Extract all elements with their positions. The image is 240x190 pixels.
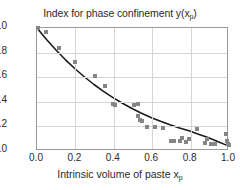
x-axis-tick-label: 0.0 bbox=[16, 152, 56, 163]
data-point-marker bbox=[103, 84, 107, 88]
plot-area bbox=[36, 27, 228, 150]
gridline-vertical bbox=[75, 28, 76, 149]
x-axis-tick-label: 1.0 bbox=[208, 152, 240, 163]
data-point-marker bbox=[140, 119, 144, 123]
chart-title: Index for phase confinement y(xp) bbox=[0, 7, 240, 19]
data-point-marker bbox=[93, 74, 97, 78]
gridline-horizontal bbox=[37, 53, 227, 54]
data-point-marker bbox=[224, 132, 228, 136]
data-point-marker bbox=[73, 60, 77, 64]
x-axis-tick-label: 0.8 bbox=[170, 152, 210, 163]
data-point-marker bbox=[205, 137, 209, 141]
chart-container: Index for phase confinement y(xp) 0.00.2… bbox=[0, 0, 240, 190]
data-point-marker bbox=[136, 102, 140, 106]
chart-title-subscript: p bbox=[190, 13, 194, 20]
chart-title-tail: ) bbox=[193, 7, 196, 19]
y-axis-tick-label: 0.8 bbox=[0, 45, 7, 56]
data-point-marker bbox=[187, 137, 191, 141]
y-axis-tick-label: 0.4 bbox=[0, 94, 7, 105]
y-axis-tick-label: 1.0 bbox=[0, 20, 7, 31]
y-axis-tick-label: 0.2 bbox=[0, 118, 7, 129]
y-axis-tick-label: 0.0 bbox=[0, 143, 7, 154]
x-axis-tick-label: 0.2 bbox=[54, 152, 94, 163]
x-axis-tick-label: 0.6 bbox=[131, 152, 171, 163]
data-point-marker bbox=[172, 139, 176, 143]
data-point-marker bbox=[153, 125, 157, 129]
data-point-marker bbox=[36, 26, 40, 30]
x-axis-tick-label: 0.4 bbox=[93, 152, 133, 163]
x-axis-label: Intrinsic volume of paste xp bbox=[0, 168, 240, 180]
y-axis-tick-label: 0.6 bbox=[0, 69, 7, 80]
data-point-marker bbox=[195, 127, 199, 131]
data-point-marker bbox=[145, 125, 149, 129]
data-point-marker bbox=[227, 143, 231, 147]
x-axis-label-subscript: p bbox=[179, 174, 183, 181]
gridline-vertical bbox=[191, 28, 192, 149]
data-point-marker bbox=[213, 142, 217, 146]
gridline-vertical bbox=[114, 28, 115, 149]
data-point-marker bbox=[161, 126, 165, 130]
gridline-horizontal bbox=[37, 77, 227, 78]
chart-title-main: Index for phase confinement y(x bbox=[43, 7, 189, 19]
x-axis-label-main: Intrinsic volume of paste x bbox=[57, 168, 178, 180]
data-point-marker bbox=[57, 46, 61, 50]
data-point-marker bbox=[44, 30, 48, 34]
data-point-marker bbox=[113, 103, 117, 107]
data-point-marker bbox=[203, 141, 207, 145]
gridline-vertical bbox=[152, 28, 153, 149]
